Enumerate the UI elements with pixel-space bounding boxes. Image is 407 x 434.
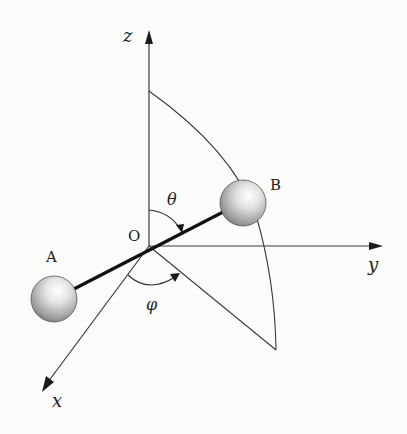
theta-label: θ xyxy=(167,190,177,209)
projection-line xyxy=(149,246,276,350)
y-axis-label: y xyxy=(367,254,379,275)
z-axis xyxy=(145,30,153,246)
theta-arc xyxy=(149,210,180,229)
phi-arrow-icon xyxy=(170,273,180,282)
z-arrow-icon xyxy=(145,30,153,44)
atom-b-label: B xyxy=(270,176,281,194)
origin-label: O xyxy=(128,227,140,245)
phi-arc xyxy=(128,275,175,285)
atom-b-sphere xyxy=(220,180,266,226)
phi-label: φ xyxy=(146,295,158,314)
y-arrow-icon xyxy=(369,242,383,250)
coordinate-diagram: z y x O A B θ φ xyxy=(0,0,407,434)
y-axis xyxy=(149,242,383,250)
atom-a-label: A xyxy=(45,248,57,266)
x-axis-label: x xyxy=(52,390,62,411)
z-axis-label: z xyxy=(122,25,133,46)
atom-a-sphere xyxy=(31,276,77,322)
